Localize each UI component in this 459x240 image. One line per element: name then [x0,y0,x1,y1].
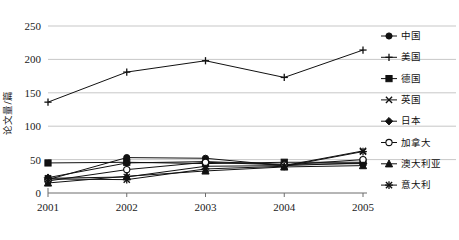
y-tick-label: 100 [25,120,42,132]
asterisk-marker [202,165,210,173]
legend-label: 日本 [401,115,421,126]
y-axis-title-text: 论文量/篇 [2,91,13,134]
x-tick-label: 2002 [116,201,138,213]
chart-container: 050100150200250 20012002200320042005 论文量… [0,0,459,240]
legend-label: 意大利 [401,179,431,190]
plus-marker [202,57,209,64]
plus-marker [359,46,366,53]
legend-label: 德国 [401,73,421,84]
asterisk-marker [280,162,288,170]
filled-square-marker [386,76,392,82]
plus-marker [385,54,392,61]
plus-marker [123,68,130,75]
x-tick-label: 2003 [195,201,218,213]
x-tick-label: 2005 [352,201,375,213]
chart-legend: 中国美国德国英国日本加拿大澳大利亚意大利 [381,30,441,190]
asterisk-marker [44,175,52,183]
axes [48,188,367,197]
legend-label: 英国 [401,94,421,105]
asterisk-marker [359,148,367,156]
x-tick-label: 2001 [37,201,59,213]
filled-diamond-marker [385,118,392,125]
y-tick-label: 150 [25,87,42,99]
legend-item-加拿大[interactable]: 加拿大 [381,137,431,148]
y-axis-tick-labels: 050100150200250 [25,20,42,199]
series-美国 [44,46,366,105]
legend-label: 中国 [401,30,421,41]
open-circle-marker [386,139,392,145]
gridlines [48,26,456,160]
line-chart: 050100150200250 20012002200320042005 论文量… [0,0,459,240]
legend-item-英国[interactable]: 英国 [381,94,421,105]
series-layer [44,46,367,186]
y-tick-label: 0 [36,187,42,199]
plus-marker [44,99,51,106]
legend-label: 加拿大 [401,137,431,148]
legend-label: 澳大利亚 [401,158,441,169]
asterisk-marker [385,181,393,189]
plus-marker [281,74,288,81]
filled-square-marker [45,160,51,166]
filled-circle-marker [386,33,392,39]
y-tick-label: 250 [25,20,42,32]
x-axis-tick-labels: 20012002200320042005 [37,201,375,213]
y-tick-label: 50 [30,154,42,166]
legend-item-日本[interactable]: 日本 [381,115,421,126]
legend-item-中国[interactable]: 中国 [381,30,421,41]
asterisk-marker [123,176,131,184]
x-tick-label: 2004 [273,201,296,213]
legend-label: 美国 [401,51,421,62]
legend-item-意大利[interactable]: 意大利 [381,179,431,190]
series-意大利 [44,148,367,184]
legend-item-德国[interactable]: 德国 [381,73,421,84]
y-axis-title: 论文量/篇 [2,91,13,134]
open-circle-marker [202,159,208,165]
legend-item-美国[interactable]: 美国 [381,51,421,62]
y-tick-label: 200 [25,53,42,65]
